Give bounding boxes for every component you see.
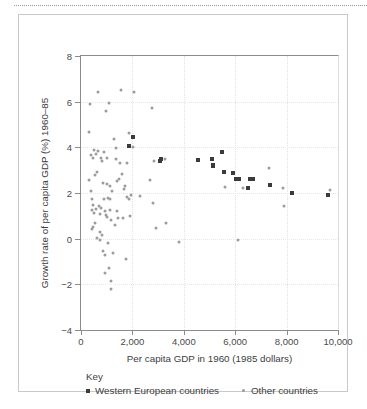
data-point-other — [106, 215, 109, 218]
data-point-other — [133, 91, 136, 94]
x-axis-tick — [81, 330, 82, 335]
data-point-other — [113, 138, 116, 141]
data-point-other — [94, 222, 97, 225]
data-point-other — [117, 217, 120, 220]
legend-label: Western European countries — [95, 385, 219, 396]
y-gridline — [81, 147, 338, 148]
x-axis-title: Per capita GDP in 1960 (1985 dollars) — [80, 353, 339, 364]
data-point-other — [165, 222, 168, 225]
figure-card: Growth rate of per capita GDP (%) 1960–8… — [18, 14, 348, 392]
y-axis-tick — [75, 330, 80, 331]
data-point-other — [130, 193, 133, 196]
y-axis-tick — [75, 102, 80, 103]
data-point-other — [131, 145, 134, 148]
data-point-western-european — [131, 135, 135, 139]
chart-legend: Key Western European countries Other cou… — [86, 371, 336, 396]
data-point-other — [104, 254, 107, 257]
data-point-other — [110, 219, 113, 222]
data-point-other — [92, 212, 95, 215]
data-point-other — [94, 153, 97, 156]
data-point-other — [329, 189, 332, 192]
data-point-other — [112, 251, 115, 254]
data-point-other — [88, 179, 91, 182]
y-axis-tick — [75, 193, 80, 194]
data-point-other — [110, 189, 113, 192]
data-point-other — [267, 167, 270, 170]
data-point-other — [108, 101, 111, 104]
data-point-other — [92, 226, 95, 229]
data-point-western-european — [290, 191, 294, 195]
data-point-other — [95, 207, 98, 210]
data-point-other — [87, 131, 90, 134]
data-point-other — [89, 190, 92, 193]
data-point-other — [149, 178, 152, 181]
data-point-other — [124, 258, 127, 261]
plot-area: 02,0004,0006,0008,00010,000−4−202468 — [80, 55, 339, 331]
data-point-other — [93, 173, 96, 176]
data-point-other — [282, 204, 285, 207]
y-gridline — [81, 239, 338, 240]
data-point-other — [281, 186, 284, 189]
circle-marker-icon — [242, 389, 245, 392]
data-point-other — [100, 160, 103, 163]
y-axis-tick-label: 6 — [67, 96, 72, 107]
x-axis-tick-label: 8,000 — [275, 336, 299, 347]
data-point-other — [104, 271, 107, 274]
x-axis-tick-label: 10,000 — [323, 336, 352, 347]
square-marker-icon — [86, 389, 90, 393]
y-axis-tick — [75, 284, 80, 285]
data-point-other — [151, 107, 154, 110]
data-point-other — [96, 170, 99, 173]
data-point-other — [101, 250, 104, 253]
data-point-western-european — [222, 170, 226, 174]
data-point-other — [121, 172, 124, 175]
data-point-other — [103, 197, 106, 200]
legend-entry-other: Other countries — [241, 385, 318, 396]
data-point-other — [116, 210, 119, 213]
y-axis-tick — [75, 147, 80, 148]
data-point-other — [102, 151, 105, 154]
data-point-other — [114, 224, 117, 227]
data-point-other — [107, 242, 110, 245]
y-gridline — [81, 102, 338, 103]
figure-page: Growth rate of per capita GDP (%) 1960–8… — [0, 0, 367, 409]
x-axis-tick — [184, 330, 185, 335]
data-point-western-european — [268, 183, 272, 187]
x-axis-tick — [235, 330, 236, 335]
data-point-other — [91, 203, 94, 206]
data-point-other — [105, 157, 108, 160]
data-point-other — [103, 209, 106, 212]
page-top-dotted-rule — [14, 5, 367, 6]
data-point-other — [237, 238, 240, 241]
data-point-other — [123, 185, 126, 188]
data-point-other — [97, 150, 100, 153]
data-point-other — [115, 158, 118, 161]
data-point-other — [101, 233, 104, 236]
data-point-other — [109, 209, 112, 212]
data-point-other — [122, 216, 125, 219]
data-point-western-european — [237, 177, 241, 181]
data-point-western-european — [159, 157, 163, 161]
data-point-other — [107, 266, 110, 269]
data-point-other — [96, 91, 99, 94]
data-point-other — [177, 241, 180, 244]
data-point-other — [164, 158, 167, 161]
data-point-other — [99, 239, 102, 242]
data-point-other — [108, 198, 111, 201]
y-axis-tick-label: 0 — [67, 233, 72, 244]
x-axis-tick — [132, 330, 133, 335]
data-point-other — [114, 146, 117, 149]
y-axis-tick-label: −2 — [61, 279, 72, 290]
data-point-western-european — [231, 171, 235, 175]
data-point-other — [102, 181, 105, 184]
legend-entry-western-european: Western European countries — [86, 385, 219, 396]
x-axis-tick — [338, 330, 339, 335]
data-point-western-european — [246, 186, 250, 190]
data-point-western-european — [220, 150, 224, 154]
data-point-western-european — [251, 177, 255, 181]
legend-items: Western European countries Other countri… — [86, 385, 336, 396]
data-point-other — [152, 201, 155, 204]
data-point-western-european — [211, 163, 215, 167]
x-axis-tick-label: 6,000 — [223, 336, 247, 347]
data-point-other — [100, 206, 103, 209]
